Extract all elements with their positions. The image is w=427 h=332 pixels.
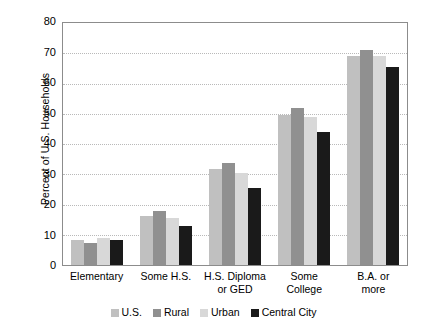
bar <box>278 115 291 265</box>
bar-chart: Percent of U.S. Households 8070605040302… <box>0 0 427 332</box>
bar-group <box>201 23 270 265</box>
bar-group <box>338 23 407 265</box>
legend-swatch-icon <box>200 309 208 317</box>
x-axis-tick-label: H.S. Diplomaor GED <box>200 270 269 295</box>
bar <box>291 108 304 265</box>
bar <box>97 238 110 265</box>
x-axis-tick-labels: ElementarySome H.S.H.S. Diplomaor GEDSom… <box>62 270 408 295</box>
bar <box>209 169 222 265</box>
legend-swatch-icon <box>111 309 119 317</box>
bar <box>235 173 248 265</box>
bar <box>140 216 153 265</box>
legend-label: Urban <box>211 307 240 318</box>
y-axis-tick-label: 10 <box>22 230 56 241</box>
x-axis-tick-label-line: Elementary <box>62 270 131 283</box>
x-axis-tick-label-line: H.S. Diploma <box>200 270 269 283</box>
bar <box>222 163 235 265</box>
bar <box>360 50 373 265</box>
legend-label: Central City <box>262 307 317 318</box>
legend-label: U.S. <box>122 307 142 318</box>
x-axis-tick-label: Some H.S. <box>131 270 200 295</box>
legend-item[interactable]: Urban <box>200 307 240 318</box>
bar-group <box>132 23 201 265</box>
chart-legend: U.S.RuralUrbanCentral City <box>0 307 427 318</box>
bar <box>248 188 261 265</box>
bar-group <box>269 23 338 265</box>
x-axis-tick-label: SomeCollege <box>270 270 339 295</box>
x-axis-tick-label-line: or GED <box>200 283 269 296</box>
x-axis-tick-label-line: Some H.S. <box>131 270 200 283</box>
y-axis-tick-label: 30 <box>22 169 56 180</box>
bar <box>386 67 399 265</box>
y-axis-tick-labels: 80706050403020100 <box>22 22 56 266</box>
bar <box>110 240 123 265</box>
bar <box>347 56 360 265</box>
y-axis-tick-label: 40 <box>22 138 56 149</box>
y-axis-tick-label: 60 <box>22 77 56 88</box>
bar <box>71 240 84 265</box>
x-axis-tick-label-line: B.A. or <box>339 270 408 283</box>
bar <box>304 117 317 265</box>
bar <box>179 226 192 265</box>
legend-swatch-icon <box>251 309 259 317</box>
x-axis-tick-label: B.A. ormore <box>339 270 408 295</box>
x-axis-tick-label: Elementary <box>62 270 131 295</box>
y-axis-tick-label: 0 <box>22 260 56 271</box>
legend-label: Rural <box>164 307 189 318</box>
bar-groups <box>63 23 407 265</box>
bar <box>153 211 166 265</box>
x-axis-tick-label-line: Some <box>270 270 339 283</box>
plot-area <box>62 22 408 266</box>
y-axis-tick-label: 20 <box>22 199 56 210</box>
bar <box>84 243 97 265</box>
y-axis-tick-label: 50 <box>22 108 56 119</box>
legend-item[interactable]: U.S. <box>111 307 142 318</box>
bar-group <box>63 23 132 265</box>
legend-item[interactable]: Rural <box>153 307 189 318</box>
y-axis-tick-label: 80 <box>22 16 56 27</box>
bar <box>373 56 386 265</box>
x-axis-tick-label-line: more <box>339 283 408 296</box>
bar <box>166 218 179 265</box>
x-axis-tick-label-line: College <box>270 283 339 296</box>
y-axis-tick-label: 70 <box>22 47 56 58</box>
legend-item[interactable]: Central City <box>251 307 317 318</box>
legend-swatch-icon <box>153 309 161 317</box>
bar <box>317 132 330 265</box>
